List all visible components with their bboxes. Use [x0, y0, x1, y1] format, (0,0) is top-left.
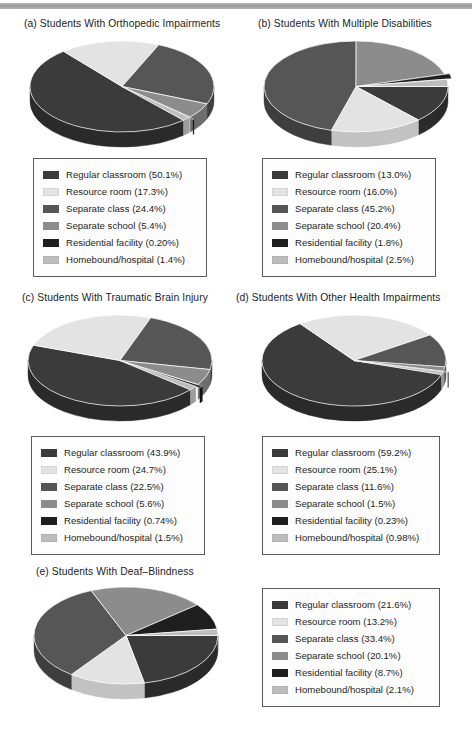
legend-swatch-icon [272, 449, 288, 457]
legend-label: Regular classroom (13.0%) [295, 170, 411, 180]
legend-item: Residential facility (0.74%) [41, 512, 198, 529]
panel-d-legend: Regular classroom (59.2%)Resource room (… [262, 436, 440, 555]
legend-item: Homebound/hospital (1.4%) [43, 251, 200, 268]
legend-item: Regular classroom (21.6%) [272, 596, 433, 613]
pie-svg [28, 584, 224, 702]
legend-swatch-icon [272, 239, 288, 247]
panel-c-pie-chart [22, 312, 232, 424]
legend-item: Separate school (5.4%) [43, 217, 200, 234]
legend-swatch-icon [272, 188, 288, 196]
legend-label: Homebound/hospital (2.1%) [295, 685, 414, 695]
legend-swatch-icon [272, 483, 288, 491]
legend-swatch-icon [272, 635, 288, 643]
legend-item: Separate class (11.6%) [272, 478, 433, 495]
legend-item: Separate school (20.1%) [272, 647, 433, 664]
panel-c: (c) Students With Traumatic Brain Injury [22, 292, 232, 424]
legend-item: Residential facility (8.7%) [272, 664, 433, 681]
legend-swatch-icon [272, 517, 288, 525]
legend-swatch-icon [272, 652, 288, 660]
legend-swatch-icon [41, 517, 57, 525]
legend-label: Resource room (16.0%) [295, 187, 397, 197]
legend-label: Residential facility (1.8%) [295, 238, 403, 248]
legend-swatch-icon [272, 534, 288, 542]
panel-b-title: (b) Students With Multiple Disabilities [258, 18, 468, 30]
legend-swatch-icon [272, 171, 288, 179]
legend-label: Resource room (17.3%) [66, 187, 168, 197]
legend-label: Homebound/hospital (1.5%) [64, 533, 183, 543]
legend-label: Resource room (25.1%) [295, 465, 397, 475]
panel-a-legend-list: Regular classroom (50.1%)Resource room (… [34, 159, 206, 275]
legend-item: Homebound/hospital (2.1%) [272, 681, 433, 698]
legend-label: Separate class (45.2%) [295, 204, 395, 214]
panel-a-title: (a) Students With Orthopedic Impairments [24, 18, 224, 30]
panel-b-legend-list: Regular classroom (13.0%)Resource room (… [263, 159, 435, 275]
panel-c-title: (c) Students With Traumatic Brain Injury [22, 292, 232, 304]
legend-swatch-icon [43, 256, 59, 264]
panel-e: (e) Students With Deaf–Blindness [36, 566, 256, 702]
pie-svg [256, 312, 452, 424]
legend-item: Separate class (22.5%) [41, 478, 198, 495]
legend-item: Separate class (33.4%) [272, 630, 433, 647]
legend-swatch-icon [41, 466, 57, 474]
legend-swatch-icon [272, 686, 288, 694]
legend-swatch-icon [272, 618, 288, 626]
legend-item: Homebound/hospital (0.98%) [272, 529, 433, 546]
legend-label: Separate class (24.4%) [66, 204, 166, 214]
legend-label: Separate school (5.4%) [66, 221, 166, 231]
legend-item: Separate school (20.4%) [272, 217, 429, 234]
panel-b-pie-chart [258, 38, 468, 150]
legend-item: Separate school (1.5%) [272, 495, 433, 512]
panel-d: (d) Students With Other Health Impairmen… [236, 292, 470, 424]
legend-item: Separate class (24.4%) [43, 200, 200, 217]
legend-label: Separate class (22.5%) [64, 482, 164, 492]
legend-label: Residential facility (0.20%) [66, 238, 179, 248]
scan-artifact-bar [0, 3, 472, 9]
panel-c-legend: Regular classroom (43.9%)Resource room (… [31, 436, 205, 555]
legend-swatch-icon [41, 483, 57, 491]
legend-swatch-icon [272, 669, 288, 677]
legend-swatch-icon [43, 222, 59, 230]
legend-swatch-icon [43, 171, 59, 179]
legend-item: Resource room (13.2%) [272, 613, 433, 630]
legend-label: Regular classroom (21.6%) [295, 600, 411, 610]
legend-swatch-icon [272, 466, 288, 474]
legend-swatch-icon [272, 500, 288, 508]
panel-d-legend-list: Regular classroom (59.2%)Resource room (… [263, 437, 439, 553]
legend-item: Separate class (45.2%) [272, 200, 429, 217]
legend-swatch-icon [43, 239, 59, 247]
legend-swatch-icon [272, 256, 288, 264]
pie-top-faces [28, 315, 212, 406]
pie-top-faces [34, 587, 218, 684]
legend-item: Resource room (24.7%) [41, 461, 198, 478]
panel-b-legend: Regular classroom (13.0%)Resource room (… [262, 158, 436, 277]
pie-top-faces [30, 41, 214, 132]
legend-item: Resource room (25.1%) [272, 461, 433, 478]
legend-swatch-icon [272, 601, 288, 609]
legend-label: Regular classroom (50.1%) [66, 170, 182, 180]
legend-item: Residential facility (0.23%) [272, 512, 433, 529]
panel-e-pie-chart [28, 584, 256, 702]
legend-label: Regular classroom (59.2%) [295, 448, 411, 458]
panel-a-legend: Regular classroom (50.1%)Resource room (… [33, 158, 207, 277]
legend-swatch-icon [43, 205, 59, 213]
panel-b: (b) Students With Multiple Disabilities [258, 18, 468, 150]
panel-e-legend: Regular classroom (21.6%)Resource room (… [262, 588, 440, 707]
legend-label: Separate school (20.4%) [295, 221, 401, 231]
legend-item: Regular classroom (59.2%) [272, 444, 433, 461]
legend-item: Resource room (17.3%) [43, 183, 200, 200]
legend-label: Separate school (20.1%) [295, 651, 401, 661]
legend-item: Resource room (16.0%) [272, 183, 429, 200]
legend-item: Regular classroom (43.9%) [41, 444, 198, 461]
legend-label: Homebound/hospital (1.4%) [66, 255, 185, 265]
panel-c-legend-list: Regular classroom (43.9%)Resource room (… [32, 437, 204, 553]
legend-label: Residential facility (8.7%) [295, 668, 403, 678]
legend-label: Resource room (24.7%) [64, 465, 166, 475]
legend-label: Separate school (5.6%) [64, 499, 164, 509]
legend-item: Homebound/hospital (2.5%) [272, 251, 429, 268]
panel-d-title: (d) Students With Other Health Impairmen… [236, 292, 470, 304]
legend-label: Regular classroom (43.9%) [64, 448, 180, 458]
legend-label: Resource room (13.2%) [295, 617, 397, 627]
legend-item: Homebound/hospital (1.5%) [41, 529, 198, 546]
legend-item: Regular classroom (13.0%) [272, 166, 429, 183]
legend-label: Homebound/hospital (0.98%) [295, 533, 419, 543]
